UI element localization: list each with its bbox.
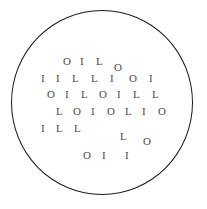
chart-letter: O [129, 73, 137, 84]
chart-letter: O [83, 150, 91, 161]
chart-letter: I [149, 73, 153, 84]
chart-letter: L [81, 89, 88, 100]
chart-letter: O [99, 89, 107, 100]
chart-letter: L [72, 73, 79, 84]
chart-letter: L [91, 73, 98, 84]
chart-letter: I [117, 89, 121, 100]
chart-letter: O [63, 56, 71, 67]
chart-letter: I [142, 106, 146, 117]
chart-letter: L [120, 131, 127, 142]
chart-letter: O [143, 136, 151, 147]
chart-letter: I [56, 73, 60, 84]
chart-letter: I [65, 89, 69, 100]
chart-letter: I [80, 56, 84, 67]
chart-letter: O [73, 106, 81, 117]
chart-letter: L [152, 89, 159, 100]
chart-letter: L [56, 123, 63, 134]
chart-letter: I [102, 150, 106, 161]
chart-letter: I [41, 123, 45, 134]
chart-letter: L [125, 106, 132, 117]
chart-letter: I [110, 73, 114, 84]
chart-letter: I [41, 73, 45, 84]
chart-letter: O [107, 106, 115, 117]
chart-letter: L [56, 106, 63, 117]
chart-letter: I [91, 106, 95, 117]
letter-chart-root: OILOIILLIOIOILOILLLOIOLIOILLLOOII [0, 0, 207, 209]
chart-letter: I [125, 150, 129, 161]
letter-field: OILOIILLIOIOILOILLLOIOLIOILLLOOII [0, 0, 207, 209]
chart-letter: O [158, 106, 166, 117]
chart-letter: L [133, 89, 140, 100]
chart-letter: O [114, 62, 122, 73]
chart-letter: L [74, 123, 81, 134]
chart-letter: L [96, 56, 103, 67]
chart-letter: O [47, 89, 55, 100]
